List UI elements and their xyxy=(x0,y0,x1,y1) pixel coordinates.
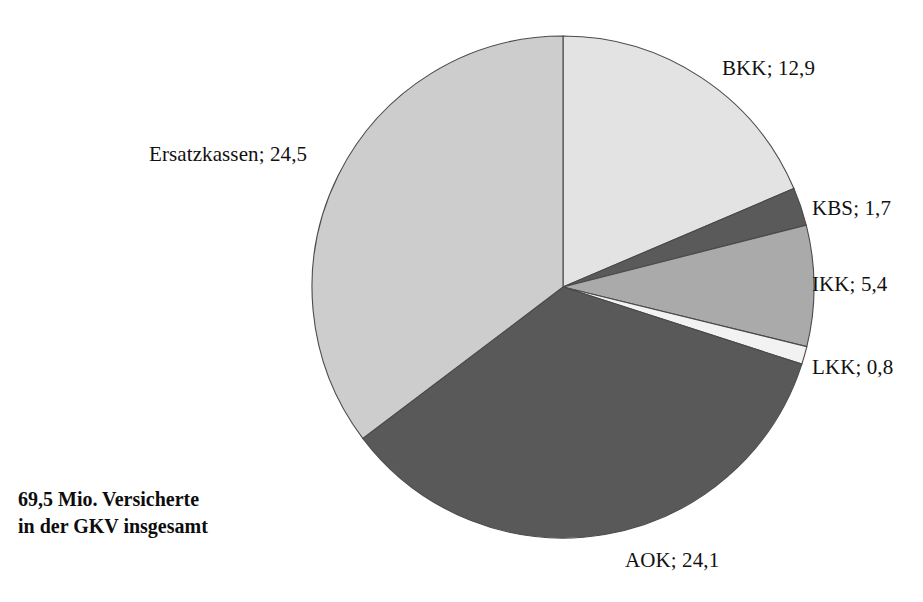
pie-chart-figure: BKK; 12,9 KBS; 1,7 IKK; 5,4 LKK; 0,8 AOK… xyxy=(0,0,923,602)
pie-label-aok: AOK; 24,1 xyxy=(625,548,719,573)
total-caption: 69,5 Mio. Versicherte in der GKV insgesa… xyxy=(18,486,208,540)
total-caption-line-1: 69,5 Mio. Versicherte xyxy=(18,486,208,513)
pie-label-ikk: IKK; 5,4 xyxy=(812,272,887,297)
pie-label-lkk: LKK; 0,8 xyxy=(812,355,893,380)
pie-label-kbs: KBS; 1,7 xyxy=(812,196,891,221)
pie-slice-group xyxy=(312,36,814,538)
total-caption-line-2: in der GKV insgesamt xyxy=(18,513,208,540)
pie-label-ersatzkassen: Ersatzkassen; 24,5 xyxy=(149,142,307,167)
pie-label-bkk: BKK; 12,9 xyxy=(722,56,815,81)
